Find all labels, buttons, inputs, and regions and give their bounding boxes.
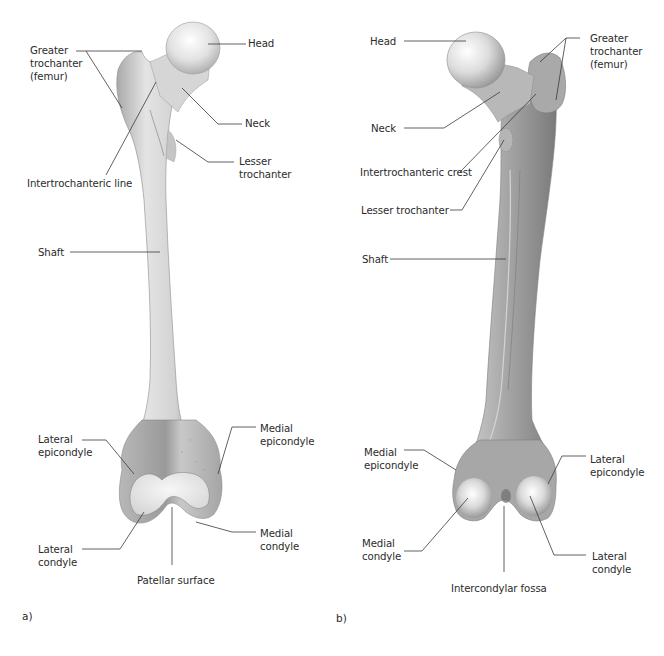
- label-a-intertrochanteric-line: Intertrochanteric line: [27, 177, 132, 190]
- label-a-lesser-trochanter: Lesser trochanter: [239, 155, 291, 181]
- label-b-medial-condyle: Medial condyle: [362, 537, 401, 563]
- label-a-patellar-surface: Patellar surface: [137, 574, 215, 587]
- figure: Head Greater trochanter (femur) Neck Les…: [0, 0, 664, 656]
- label-a-medial-condyle: Medial condyle: [260, 527, 299, 553]
- femur-anterior: [117, 22, 222, 523]
- label-b-neck: Neck: [371, 122, 396, 135]
- label-a-head: Head: [248, 37, 274, 50]
- panel-tag-a: a): [22, 610, 33, 622]
- label-b-head: Head: [370, 35, 396, 48]
- label-b-intercondylar-fossa: Intercondylar fossa: [451, 582, 547, 595]
- label-b-lateral-condyle: Lateral condyle: [592, 550, 631, 576]
- label-b-lateral-epicondyle: Lateral epicondyle: [590, 453, 644, 479]
- label-a-lateral-epicondyle: Lateral epicondyle: [38, 433, 92, 459]
- label-a-greater-trochanter: Greater trochanter (femur): [30, 44, 82, 83]
- label-a-lateral-condyle: Lateral condyle: [38, 543, 77, 569]
- femur-illustrations: [0, 0, 664, 656]
- label-b-shaft: Shaft: [362, 253, 388, 266]
- label-a-medial-epicondyle: Medial epicondyle: [260, 422, 314, 448]
- label-a-neck: Neck: [245, 117, 270, 130]
- femur-posterior: [447, 32, 566, 521]
- label-b-lesser-trochanter: Lesser trochanter: [361, 204, 449, 217]
- label-b-intertrochanteric-crest: Intertrochanteric crest: [360, 166, 472, 179]
- label-b-greater-trochanter: Greater trochanter (femur): [590, 32, 642, 71]
- label-a-shaft: Shaft: [38, 246, 64, 259]
- panel-tag-b: b): [336, 612, 347, 624]
- label-b-medial-epicondyle: Medial epicondyle: [364, 446, 418, 472]
